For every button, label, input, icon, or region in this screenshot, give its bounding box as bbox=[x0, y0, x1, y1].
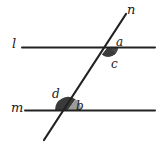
angle-label-c: c bbox=[111, 58, 118, 70]
lines bbox=[22, 14, 155, 140]
angle-label-d: d bbox=[52, 88, 60, 100]
line-n-transversal bbox=[44, 14, 126, 140]
line-label-n: n bbox=[127, 3, 135, 16]
line-label-m: m bbox=[11, 101, 23, 114]
angle-markers bbox=[55, 47, 118, 110]
line-label-l: l bbox=[12, 37, 16, 50]
geometry-canvas bbox=[0, 0, 160, 148]
angle-label-b: b bbox=[76, 100, 84, 112]
geometry-figure: l m n a c d b bbox=[0, 0, 160, 148]
angle-label-a: a bbox=[116, 36, 123, 48]
